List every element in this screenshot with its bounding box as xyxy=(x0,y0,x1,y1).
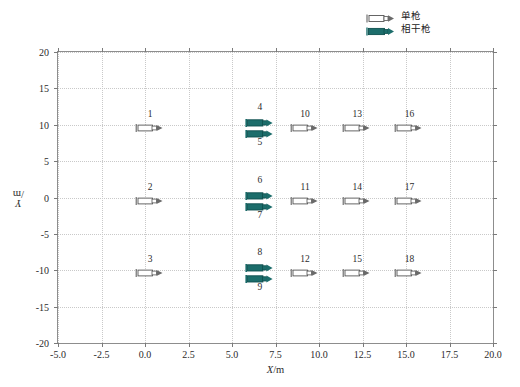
x-tick-top xyxy=(145,48,146,52)
marker-coherent-gun-pair[interactable]: 45 xyxy=(245,114,275,136)
x-tick xyxy=(363,343,364,347)
gridline-horizontal xyxy=(58,198,493,199)
marker-coherent-gun[interactable]: 7 xyxy=(245,198,275,208)
gridline-horizontal xyxy=(58,88,493,89)
marker-coherent-gun[interactable]: 4 xyxy=(245,114,275,124)
marker-single-gun[interactable]: 2 xyxy=(135,192,165,203)
y-tick-label: 0 xyxy=(44,192,49,203)
legend-entry-1[interactable]: 相干枪 xyxy=(366,22,431,34)
y-axis-label-unit: /m xyxy=(12,189,23,200)
marker-single-gun[interactable]: 15 xyxy=(342,265,372,276)
gridline-horizontal xyxy=(58,234,493,235)
x-tick-top xyxy=(363,48,364,52)
marker-single-gun[interactable]: 11 xyxy=(290,192,320,203)
x-tick-label: -2.5 xyxy=(94,349,110,360)
marker-single-gun[interactable]: 10 xyxy=(290,119,320,130)
x-tick-label: 5.0 xyxy=(226,349,239,360)
marker-number-label: 16 xyxy=(405,108,415,118)
x-tick xyxy=(450,343,451,347)
x-tick-label: 12.5 xyxy=(354,349,372,360)
gridline-horizontal xyxy=(58,52,493,53)
legend-label-1: 相干枪 xyxy=(401,23,431,34)
marker-coherent-gun[interactable]: 6 xyxy=(245,187,275,197)
marker-coherent-gun[interactable]: 9 xyxy=(245,270,275,280)
gridline-horizontal xyxy=(58,270,493,271)
marker-number-label: 9 xyxy=(257,282,262,292)
marker-single-gun[interactable]: 16 xyxy=(394,119,424,130)
figure-root: 单枪 相干枪 123101112131415161718456789 -5.0-… xyxy=(0,0,520,387)
y-tick xyxy=(54,307,58,308)
x-tick-label: 7.5 xyxy=(269,349,282,360)
legend-entry-0[interactable]: 单枪 xyxy=(366,9,421,21)
gridline-horizontal xyxy=(58,307,493,308)
marker-single-gun[interactable]: 17 xyxy=(394,192,424,203)
x-tick xyxy=(145,343,146,347)
marker-number-label: 17 xyxy=(405,181,415,191)
x-tick-label: 0.0 xyxy=(139,349,152,360)
marker-coherent-gun[interactable]: 8 xyxy=(245,259,275,269)
x-tick-label: 15.0 xyxy=(397,349,415,360)
marker-number-label: 3 xyxy=(148,254,153,264)
x-tick xyxy=(319,343,320,347)
x-tick-top xyxy=(450,48,451,52)
marker-single-gun[interactable]: 18 xyxy=(394,265,424,276)
y-tick-right xyxy=(493,52,497,53)
y-tick-right xyxy=(493,307,497,308)
y-tick-right xyxy=(493,88,497,89)
marker-number-label: 11 xyxy=(301,181,310,191)
y-tick xyxy=(54,343,58,344)
marker-number-label: 5 xyxy=(257,137,262,147)
gridline-horizontal xyxy=(58,125,493,126)
filled-gun-arrow-icon xyxy=(366,23,396,34)
x-tick-top xyxy=(319,48,320,52)
y-tick xyxy=(54,270,58,271)
x-tick xyxy=(102,343,103,347)
marker-number-label: 10 xyxy=(300,108,310,118)
y-tick xyxy=(54,161,58,162)
x-tick xyxy=(406,343,407,347)
marker-number-label: 7 xyxy=(257,210,262,220)
y-tick-label: 20 xyxy=(39,47,49,58)
y-tick-right xyxy=(493,234,497,235)
x-tick-top xyxy=(232,48,233,52)
y-tick-right xyxy=(493,161,497,162)
legend-label-0: 单枪 xyxy=(401,10,421,21)
y-axis-label: Y/m xyxy=(12,51,24,344)
x-axis-label: X/m xyxy=(57,364,494,375)
marker-single-gun[interactable]: 3 xyxy=(135,265,165,276)
y-tick xyxy=(54,198,58,199)
marker-single-gun[interactable]: 1 xyxy=(135,119,165,130)
y-tick-right xyxy=(493,343,497,344)
y-tick xyxy=(54,125,58,126)
marker-number-label: 12 xyxy=(300,254,310,264)
x-tick-label: 20.0 xyxy=(484,349,502,360)
y-tick-right xyxy=(493,198,497,199)
marker-single-gun[interactable]: 14 xyxy=(342,192,372,203)
y-tick-label: 15 xyxy=(39,83,49,94)
marker-number-label: 18 xyxy=(405,254,415,264)
y-tick xyxy=(54,234,58,235)
marker-coherent-gun-pair[interactable]: 67 xyxy=(245,187,275,209)
x-tick-label: 2.5 xyxy=(182,349,195,360)
marker-single-gun[interactable]: 13 xyxy=(342,119,372,130)
x-tick xyxy=(58,343,59,347)
marker-single-gun[interactable]: 12 xyxy=(290,265,320,276)
marker-coherent-gun-pair[interactable]: 89 xyxy=(245,259,275,281)
x-tick xyxy=(189,343,190,347)
x-tick-label: 17.5 xyxy=(441,349,459,360)
y-tick-label: -15 xyxy=(36,301,49,312)
marker-number-label: 13 xyxy=(353,108,363,118)
marker-number-label: 1 xyxy=(148,108,153,118)
y-tick-right xyxy=(493,125,497,126)
y-tick-label: 5 xyxy=(44,156,49,167)
y-tick-label: 10 xyxy=(39,119,49,130)
x-tick xyxy=(276,343,277,347)
x-axis-label-unit: /m xyxy=(273,364,284,375)
y-tick-label: -10 xyxy=(36,265,49,276)
x-tick-top xyxy=(102,48,103,52)
x-tick xyxy=(232,343,233,347)
marker-coherent-gun[interactable]: 5 xyxy=(245,125,275,135)
plot-area: 123101112131415161718456789 xyxy=(58,52,493,343)
marker-number-label: 15 xyxy=(353,254,363,264)
x-tick-label: -5.0 xyxy=(50,349,66,360)
